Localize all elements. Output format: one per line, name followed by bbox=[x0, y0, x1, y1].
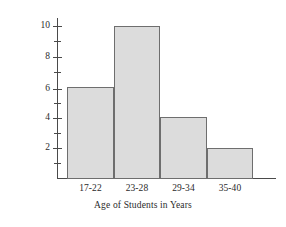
y-tick-label-8: 8 bbox=[30, 52, 50, 62]
bar-29-34 bbox=[160, 117, 207, 179]
y-tick-major-6 bbox=[53, 89, 62, 90]
x-axis-title: Age of Students in Years bbox=[0, 200, 286, 210]
histogram-figure: Number of Students in Hundreds 10 8 6 4 … bbox=[0, 0, 286, 227]
y-tick-major-8 bbox=[53, 57, 62, 58]
y-tick-minor-5 bbox=[54, 103, 61, 104]
y-tick-major-10 bbox=[53, 26, 62, 27]
bar-23-28 bbox=[114, 26, 160, 179]
y-axis-line bbox=[57, 18, 58, 179]
x-tick-label-2: 29-34 bbox=[160, 182, 207, 194]
y-tick-label-2: 2 bbox=[30, 143, 50, 153]
y-tick-major-4 bbox=[53, 118, 62, 119]
y-tick-minor-1 bbox=[54, 163, 61, 164]
y-tick-label-4: 4 bbox=[30, 113, 50, 123]
y-tick-minor-3 bbox=[54, 133, 61, 134]
bar-17-22 bbox=[67, 87, 114, 179]
y-tick-minor-9 bbox=[54, 41, 61, 42]
y-tick-label-10: 10 bbox=[30, 21, 50, 31]
y-tick-label-6: 6 bbox=[30, 84, 50, 94]
bar-35-40 bbox=[207, 148, 253, 179]
x-tick-label-0: 17-22 bbox=[67, 182, 114, 194]
x-tick-label-1: 23-28 bbox=[114, 182, 160, 194]
y-tick-major-2 bbox=[53, 148, 62, 149]
x-tick-label-3: 35-40 bbox=[207, 182, 253, 194]
plot-area: 10 8 6 4 2 17-22 23-28 29-34 35-40 bbox=[0, 0, 286, 227]
y-tick-minor-7 bbox=[54, 72, 61, 73]
